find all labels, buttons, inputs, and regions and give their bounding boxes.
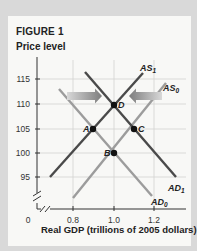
x-tick-0: 0 [26,215,31,225]
point-label-a: A [82,124,90,134]
y-tick-115: 115 [16,74,30,84]
curve-as1 [50,73,143,177]
shift-arrow-right [67,89,102,104]
y-tick-95: 95 [21,172,31,182]
point-c [131,126,137,132]
y-tick-100: 100 [16,148,30,158]
point-label-b: B [104,148,111,158]
chart-plot: 115 110 105 100 95 0 0.8 1.0 1.2 A B C D… [0,0,197,251]
point-d [111,102,117,108]
label-as0: AS0 [162,83,180,94]
point-label-c: C [138,124,145,134]
point-b [111,150,117,156]
label-ad0: AD0 [150,197,168,208]
x-axis-title: Real GDP (trillions of 2005 dollars) [41,224,197,235]
point-label-d: D [118,100,125,110]
point-a [90,126,96,132]
shift-arrow-left [129,89,162,104]
label-ad1: AD1 [167,183,185,194]
y-tick-105: 105 [16,124,30,134]
axes [33,57,186,212]
y-tick-110: 110 [16,99,30,109]
